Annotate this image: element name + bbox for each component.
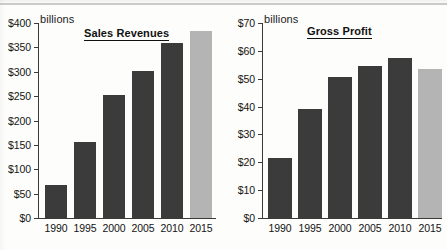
x-axis-label-1995: 1995 [70,222,100,234]
x-axis-line [38,218,216,219]
y-axis-tick [34,145,39,146]
x-axis-label-2005: 2005 [128,222,158,234]
y-axis-tick [34,72,39,73]
bar-gross-profit-2015 [418,69,442,218]
y-axis-label: $40 [223,101,255,113]
y-axis-tick [258,190,263,191]
y-axis-tick [34,169,39,170]
bar-sales-revenues-2005 [132,71,154,218]
x-axis-label-1995: 1995 [294,222,326,234]
bar-gross-profit-2005 [358,66,382,218]
bar-sales-revenues-2000 [103,95,125,218]
x-axis-label-2015: 2015 [186,222,216,234]
bar-gross-profit-2000 [328,77,352,218]
y-axis-label: $60 [223,45,255,57]
x-axis-line [262,218,442,219]
y-axis-label: $350 [0,41,31,53]
bar-sales-revenues-2015 [190,31,212,218]
y-axis-tick [34,194,39,195]
x-axis-label-2015: 2015 [414,222,446,234]
x-axis-label-2010: 2010 [384,222,416,234]
y-axis-tick [34,121,39,122]
plot-area-gross-profit: $0$10$20$30$40$50$60$7019901995200020052… [223,0,447,250]
y-axis-tick [34,23,39,24]
bar-gross-profit-2010 [388,58,412,218]
y-axis-label: $100 [0,163,31,175]
x-axis-label-2000: 2000 [324,222,356,234]
x-axis-label-1990: 1990 [41,222,71,234]
y-axis-label: $0 [223,212,255,224]
y-axis-label: $400 [0,17,31,29]
bar-gross-profit-1995 [298,109,322,218]
y-axis-label: $0 [0,212,31,224]
chart-panel-gross-profit: billions Gross Profit $0$10$20$30$40$50$… [223,0,447,250]
y-axis-label: $300 [0,66,31,78]
y-axis-tick [258,51,263,52]
plot-area-sales-revenues: $0$50$100$150$200$250$300$350$4001990199… [0,0,223,250]
bar-sales-revenues-1990 [45,185,67,218]
y-axis-tick [258,107,263,108]
y-axis-tick [258,162,263,163]
x-axis-label-2010: 2010 [157,222,187,234]
y-axis-tick [258,218,263,219]
y-axis-tick [258,134,263,135]
y-axis-tick [258,23,263,24]
y-axis-label: $70 [223,17,255,29]
y-axis-label: $200 [0,115,31,127]
bar-gross-profit-1990 [268,158,292,218]
bar-sales-revenues-1995 [74,142,96,218]
y-axis-tick [34,96,39,97]
chart-panel-sales-revenues: billions Sales Revenues $0$50$100$150$20… [0,0,223,250]
y-axis-label: $20 [223,156,255,168]
y-axis-tick [258,79,263,80]
y-axis-label: $30 [223,128,255,140]
bar-sales-revenues-2010 [161,43,183,219]
y-axis-label: $50 [0,188,31,200]
y-axis-label: $50 [223,73,255,85]
charts-container: billions Sales Revenues $0$50$100$150$20… [0,0,447,250]
x-axis-label-2000: 2000 [99,222,129,234]
y-axis-tick [34,47,39,48]
x-axis-label-1990: 1990 [264,222,296,234]
y-axis-tick [34,218,39,219]
y-axis-label: $10 [223,184,255,196]
y-axis-label: $250 [0,90,31,102]
x-axis-label-2005: 2005 [354,222,386,234]
y-axis-label: $150 [0,139,31,151]
